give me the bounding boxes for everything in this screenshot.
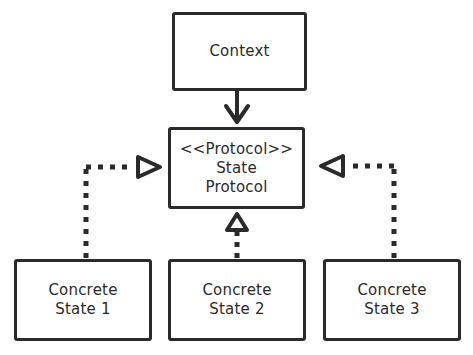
state3-line2: State 3 [364,300,419,319]
state1-line2: State 1 [55,300,110,319]
concrete-state-1-box: Concrete State 1 [14,259,152,341]
state1-line1: Concrete [48,281,117,300]
context-label: Context [209,42,269,61]
state3-realization-arrow [321,156,394,258]
context-box: Context [172,12,307,91]
state2-realization-arrow [227,214,247,258]
state1-realization-arrow [86,157,160,258]
state-protocol-box: <<Protocol>> State Protocol [168,127,305,209]
state3-line1: Concrete [357,281,426,300]
state2-line1: Concrete [202,281,271,300]
protocol-name-line2: Protocol [205,178,267,197]
concrete-state-2-box: Concrete State 2 [168,259,306,341]
protocol-stereotype: <<Protocol>> [180,140,293,159]
context-to-protocol-arrow [226,90,248,122]
protocol-name-line1: State [216,159,257,178]
state2-line2: State 2 [209,300,264,319]
concrete-state-3-box: Concrete State 3 [323,259,461,341]
